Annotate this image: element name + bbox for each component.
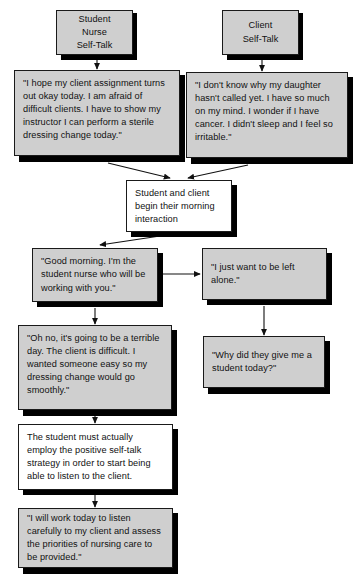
node-student-nurse-header-label: Student Nurse Self-Talk xyxy=(65,13,124,52)
shadow-side-client-self-talk-2 xyxy=(325,341,330,394)
shadow-client-header xyxy=(227,55,303,60)
node-strategy-note[interactable]: The student must actually employ the pos… xyxy=(18,424,173,490)
shadow-nurse-self-talk-2 xyxy=(23,410,177,416)
node-nurse-self-talk-2-label: "Oh no, it's going to be a terrible day.… xyxy=(27,332,163,397)
node-client-header[interactable]: Client Self-Talk xyxy=(222,10,299,55)
shadow-strategy-note xyxy=(23,490,178,495)
node-interaction-begins-label: Student and client begin their morning i… xyxy=(135,187,223,226)
node-client-header-label: Client Self-Talk xyxy=(243,19,279,45)
shadow-client-self-talk-2 xyxy=(208,388,330,394)
shadow-side-interaction-begins xyxy=(232,185,237,237)
node-client-response-label: "I just want to be left alone." xyxy=(211,261,318,287)
node-nurse-greeting[interactable]: "Good morning. I'm the student nurse who… xyxy=(32,248,158,302)
node-nurse-self-talk-1[interactable]: "I hope my client assignment turns out o… xyxy=(14,70,180,156)
shadow-student-nurse-header xyxy=(61,55,137,60)
shadow-side-strategy-note xyxy=(173,429,178,495)
edge-client-self-talk-1-to-interaction-begins xyxy=(188,165,248,178)
node-client-self-talk-2[interactable]: "Why did they give me a student today?" xyxy=(203,336,325,388)
node-client-response[interactable]: "I just want to be left alone." xyxy=(202,248,327,300)
shadow-client-self-talk-1 xyxy=(191,158,353,164)
shadow-interaction-begins xyxy=(131,232,237,237)
node-client-self-talk-1[interactable]: "I don't know why my daughter hasn't cal… xyxy=(186,72,348,158)
node-client-self-talk-2-label: "Why did they give me a student today?" xyxy=(212,349,316,375)
shadow-nurse-self-talk-1 xyxy=(19,156,185,162)
shadow-side-nurse-greeting xyxy=(158,253,163,307)
node-interaction-begins[interactable]: Student and client begin their morning i… xyxy=(126,180,232,232)
shadow-side-client-response xyxy=(327,253,332,305)
node-student-nurse-header[interactable]: Student Nurse Self-Talk xyxy=(56,10,133,55)
edge-nurse-self-talk-1-to-interaction-begins xyxy=(108,163,170,178)
node-nurse-positive-self-talk[interactable]: "I will work today to listen carefully t… xyxy=(18,508,173,568)
flowchart-canvas: Student Nurse Self-Talk Client Self-Talk… xyxy=(0,0,353,587)
shadow-nurse-positive-self-talk xyxy=(23,568,178,574)
node-nurse-self-talk-1-label: "I hope my client assignment turns out o… xyxy=(23,77,171,142)
node-strategy-note-label: The student must actually employ the pos… xyxy=(27,431,164,483)
node-client-self-talk-1-label: "I don't know why my daughter hasn't cal… xyxy=(195,79,339,144)
shadow-client-response xyxy=(207,300,332,305)
shadow-nurse-greeting xyxy=(37,302,163,307)
node-nurse-greeting-label: "Good morning. I'm the student nurse who… xyxy=(41,255,149,294)
node-nurse-self-talk-2[interactable]: "Oh no, it's going to be a terrible day.… xyxy=(18,325,172,410)
node-nurse-positive-self-talk-label: "I will work today to listen carefully t… xyxy=(27,512,164,564)
